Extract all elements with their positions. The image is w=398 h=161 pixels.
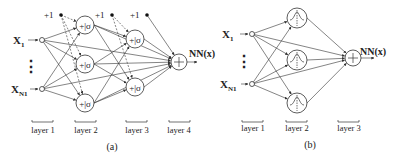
input-node-xn1-a <box>40 87 45 92</box>
panel-a-edges <box>42 15 174 103</box>
input-node-x1-a <box>40 38 45 43</box>
layer-label: layer 2 <box>74 125 97 135</box>
bias-node <box>110 13 114 17</box>
connection-edge <box>252 65 288 84</box>
output-node-a <box>171 54 187 70</box>
caption-a: (a) <box>106 141 117 153</box>
layer-label: layer 3 <box>337 123 360 133</box>
panel-a: X1 XN1 ⋮ +1 +1 +1 +|σ +|σ +|σ +|σ <box>11 10 215 153</box>
bias-label: +1 <box>130 10 140 20</box>
connection-edge <box>307 63 346 103</box>
rbf-node-3 <box>287 93 307 113</box>
connection-edge <box>42 40 80 95</box>
bias-node <box>145 13 149 17</box>
svg-text:+|σ: +|σ <box>79 21 91 31</box>
output-label-a: NN(x) <box>189 48 215 60</box>
connection-edge <box>307 18 346 53</box>
output-node-b <box>345 50 361 66</box>
connection-edge <box>252 34 288 55</box>
layer-label: layer 1 <box>31 125 54 135</box>
hidden-node-l3-1: +|σ <box>126 30 144 48</box>
input-xn1-label-b: XN1 <box>220 78 237 93</box>
bias-node <box>59 13 63 17</box>
svg-text:+|σ: +|σ <box>129 83 141 93</box>
panel-b: X1 XN1 ⋮ NN(x) layer 1 layer 2 layer 3 (… <box>220 8 386 151</box>
connection-edge <box>94 90 126 103</box>
connection-edge <box>61 15 76 21</box>
layer-label: layer 1 <box>241 123 264 133</box>
input-node-xn1-b <box>250 82 255 87</box>
ellipsis-b: ⋮ <box>236 53 252 70</box>
input-xn1-label-a: XN1 <box>11 83 28 98</box>
connection-edge <box>42 89 76 100</box>
svg-text:+|σ: +|σ <box>79 60 91 70</box>
bias-label: +1 <box>95 10 105 20</box>
layer-brackets-a <box>32 120 190 122</box>
connection-edge <box>42 28 76 40</box>
hidden-node-l2-3: +|σ <box>76 94 94 112</box>
input-node-x1-b <box>250 32 255 37</box>
layer-label: layer 3 <box>125 125 148 135</box>
caption-b: (b) <box>304 139 316 151</box>
connection-edge <box>252 34 291 94</box>
neural-network-diagram: X1 XN1 ⋮ +1 +1 +1 +|σ +|σ +|σ +|σ <box>0 0 398 161</box>
hidden-node-l2-1: +|σ <box>76 16 94 34</box>
ellipsis-a: ⋮ <box>23 58 39 75</box>
rbf-node-2 <box>287 50 307 70</box>
output-label-b: NN(x) <box>360 46 386 58</box>
svg-text:+|σ: +|σ <box>79 99 91 109</box>
connection-edge <box>94 43 127 64</box>
connection-edge <box>94 25 126 36</box>
bias-label: +1 <box>44 10 54 20</box>
layer-label: layer 4 <box>167 125 191 135</box>
input-x1-label-a: X1 <box>13 34 25 49</box>
connection-edge <box>42 64 171 89</box>
connection-edge <box>147 15 174 55</box>
svg-text:+|σ: +|σ <box>129 35 141 45</box>
connection-edge <box>252 84 287 99</box>
connection-edge <box>307 58 345 60</box>
connection-edge <box>94 62 171 64</box>
layer-label: layer 2 <box>285 123 308 133</box>
input-x1-label-b: X1 <box>222 28 234 43</box>
rbf-node-1 <box>287 8 307 28</box>
hidden-node-l2-2: +|σ <box>76 55 94 73</box>
hidden-node-l3-2: +|σ <box>126 78 144 96</box>
connection-edge <box>252 22 287 34</box>
connection-edge <box>42 69 77 89</box>
layer-brackets-b <box>242 120 359 122</box>
